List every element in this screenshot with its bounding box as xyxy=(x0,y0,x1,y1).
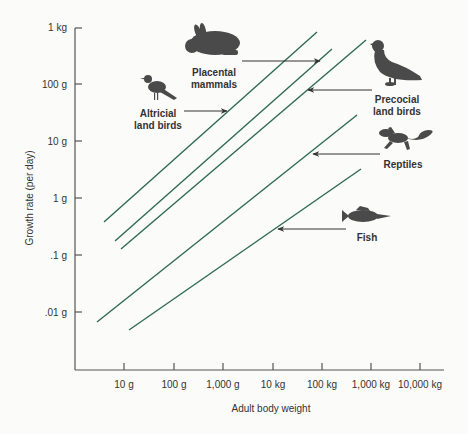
x-tick-label: 10 kg xyxy=(261,379,285,390)
y-tick-label: 10 g xyxy=(48,136,67,147)
y-tick-label: 1 g xyxy=(53,193,67,204)
x-tick-label: 10 g xyxy=(114,379,133,390)
x-axis xyxy=(75,363,444,370)
y-tick-labels: 1 kg 100 g 10 g 1 g .1 g .01 g xyxy=(42,22,67,318)
label-altricial-line2: land birds xyxy=(134,120,182,131)
y-tick-label: .01 g xyxy=(45,307,67,318)
bird-icon xyxy=(140,75,177,100)
x-axis-title: Adult body weight xyxy=(232,403,311,414)
label-precocial-line1: Precocial xyxy=(375,94,420,105)
y-axis-title: Growth rate (per day) xyxy=(24,150,35,245)
label-placental-line2: mammals xyxy=(191,79,238,90)
label-altricial-line1: Altricial xyxy=(140,108,177,119)
y-tick-label: 1 kg xyxy=(48,22,67,33)
line-reptiles xyxy=(97,115,357,322)
growth-rate-chart: 1 kg 100 g 10 g 1 g .1 g .01 g 10 g 100 … xyxy=(0,0,468,434)
rabbit-icon xyxy=(185,23,240,55)
fish-icon xyxy=(342,206,391,222)
line-fish xyxy=(129,169,361,330)
y-tick-label: .1 g xyxy=(50,250,67,261)
x-tick-label: 1,000 kg xyxy=(352,379,390,390)
label-fish: Fish xyxy=(357,232,378,243)
label-precocial-line2: land birds xyxy=(373,106,421,117)
label-placental-line1: Placental xyxy=(192,67,236,78)
x-tick-labels: 10 g 100 g 1,000 g 10 kg 100 kg 1,000 kg… xyxy=(114,379,442,390)
y-tick-label: 100 g xyxy=(42,79,67,90)
x-tick-label: 1,000 g xyxy=(206,379,239,390)
label-reptiles: Reptiles xyxy=(384,159,423,170)
duck-icon xyxy=(370,40,422,86)
x-tick-label: 10,000 kg xyxy=(398,379,442,390)
y-axis xyxy=(75,28,82,370)
x-tick-label: 100 g xyxy=(161,379,186,390)
x-tick-label: 100 kg xyxy=(307,379,337,390)
lizard-icon xyxy=(379,127,433,150)
line-precocial-land-birds xyxy=(121,40,366,249)
